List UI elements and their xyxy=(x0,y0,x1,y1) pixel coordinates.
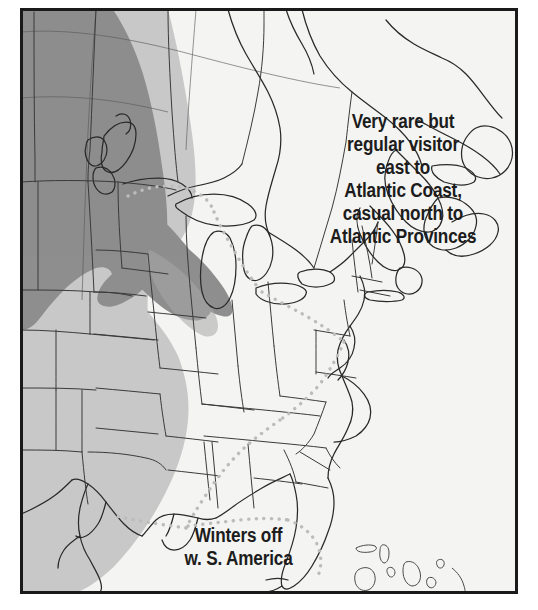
map-canvas xyxy=(0,0,538,610)
range-map: Very rare but regular visitor east to At… xyxy=(0,0,538,610)
